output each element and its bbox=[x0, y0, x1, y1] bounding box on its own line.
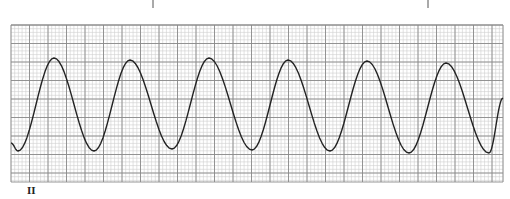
ecg-strip bbox=[0, 0, 510, 199]
top-tick-marks bbox=[153, 0, 428, 8]
lead-label: II bbox=[27, 184, 36, 196]
